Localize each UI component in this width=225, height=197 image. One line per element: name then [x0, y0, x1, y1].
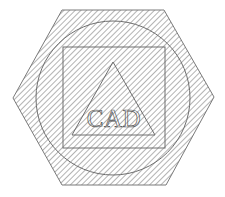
cad-drawing-svg: CAD — [0, 0, 225, 197]
cad-label: CAD — [87, 105, 141, 132]
hexagon-shape — [13, 10, 214, 185]
cad-drawing: CAD — [0, 0, 225, 197]
